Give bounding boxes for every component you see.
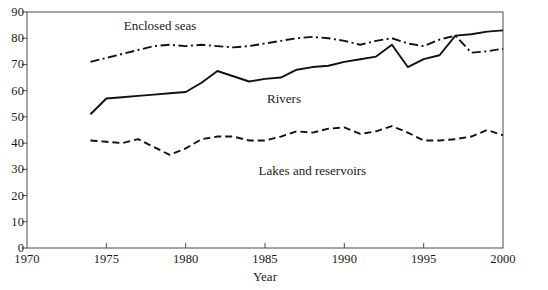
- x-axis-tick-label: 1975: [81, 253, 131, 266]
- y-axis-tick-label: 30: [0, 163, 24, 176]
- y-axis-tick-label: 20: [0, 190, 24, 203]
- chart-container: 0102030405060708090 19701975198019851990…: [0, 0, 548, 290]
- x-axis-tick-label: 1980: [161, 253, 211, 266]
- y-axis-tick-label: 40: [0, 137, 24, 150]
- plot-border: [27, 12, 503, 248]
- series-annotation-label: Lakes and reservoirs: [259, 164, 367, 177]
- x-axis-tick-label: 1985: [240, 253, 290, 266]
- y-axis-tick-label: 80: [0, 32, 24, 45]
- series-annotation-label: Rivers: [267, 92, 301, 105]
- x-axis-title: Year: [225, 270, 305, 283]
- x-axis-tick-label: 1995: [399, 253, 449, 266]
- line-chart-plot: [0, 0, 548, 290]
- y-axis-tick-label: 90: [0, 6, 24, 19]
- x-axis-tick-label: 2000: [478, 253, 528, 266]
- y-axis-tick-label: 70: [0, 58, 24, 71]
- x-axis-tick-label: 1990: [319, 253, 369, 266]
- y-axis-tick-label: 10: [0, 216, 24, 229]
- y-axis-ticks: [22, 12, 27, 248]
- x-axis-tick-label: 1970: [2, 253, 52, 266]
- y-axis-tick-label: 50: [0, 111, 24, 124]
- series-annotation-label: Enclosed seas: [124, 19, 197, 32]
- series-line-enclosed-seas: [90, 36, 503, 62]
- plot-frame: [27, 12, 503, 248]
- y-axis-tick-label: 60: [0, 85, 24, 98]
- x-axis-ticks: [106, 243, 423, 248]
- series-line-lakes-and-reservoirs: [90, 126, 503, 155]
